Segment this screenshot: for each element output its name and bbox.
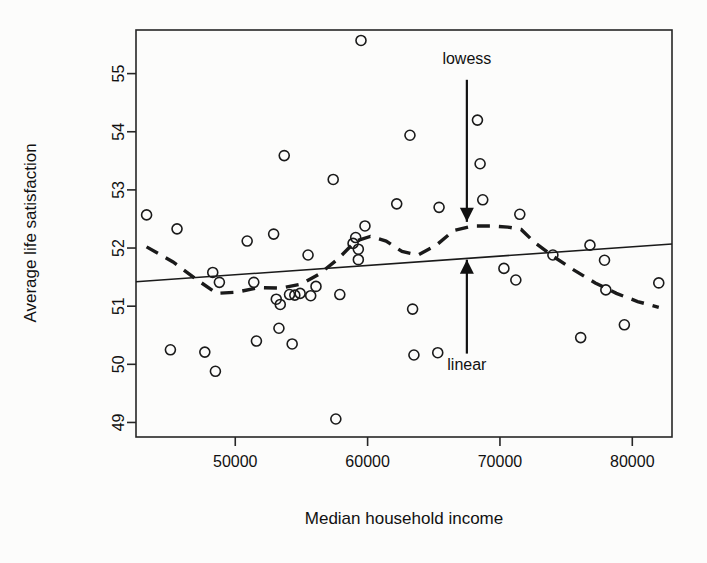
data-point [392,199,402,209]
x-tick-label-70000: 70000 [478,453,523,470]
data-point [478,195,488,205]
data-point [242,236,252,246]
annotation-label-linear: linear [447,356,487,373]
data-point [311,281,321,291]
data-point [279,151,289,161]
data-point [654,278,664,288]
data-point [434,202,444,212]
data-point [172,224,182,234]
data-point [576,333,586,343]
y-axis-title: Average life satisfaction [21,143,40,322]
x-tick-label-60000: 60000 [345,453,390,470]
data-point [433,348,443,358]
data-point [331,414,341,424]
data-point [274,323,284,333]
data-point [249,277,259,287]
y-tick-label-51: 51 [110,297,127,315]
chart-figure: Average life satisfaction Median househo… [0,0,707,563]
data-point [360,221,370,231]
data-point [287,339,297,349]
data-point [472,115,482,125]
y-tick-label-50: 50 [110,355,127,373]
annotations: lowesslinear [442,50,491,373]
y-tick-label-54: 54 [110,123,127,141]
data-point [328,174,338,184]
y-tick-label-49: 49 [110,413,127,431]
y-tick-label-53: 53 [110,181,127,199]
data-point [303,250,313,260]
data-point [165,345,175,355]
data-points [142,35,664,424]
data-point [251,336,261,346]
data-point [585,240,595,250]
data-point [200,347,210,357]
data-point [600,255,610,265]
scatter-plot-svg: Average life satisfaction Median househo… [0,0,707,563]
data-point [408,304,418,314]
annotation-arrow-head-lowess [460,208,474,222]
data-point [269,229,279,239]
data-point [306,291,316,301]
data-point [210,366,220,376]
x-tick-label-80000: 80000 [610,453,655,470]
y-tick-label-52: 52 [110,239,127,257]
data-point [515,209,525,219]
lowess-curve [147,226,659,307]
data-point [351,233,361,243]
annotation-label-lowess: lowess [442,50,491,67]
data-point [356,35,366,45]
data-point [511,275,521,285]
lowess-polyline [147,226,659,307]
data-point [601,285,611,295]
x-axis-title: Median household income [305,509,503,528]
data-point [214,277,224,287]
x-tick-label-50000: 50000 [213,453,258,470]
data-point [619,320,629,330]
data-point [409,350,419,360]
data-point [548,250,558,260]
data-point [353,255,363,265]
data-point [142,210,152,220]
data-point [335,290,345,300]
x-axis-ticks: 50000600007000080000 [213,437,655,470]
data-point [475,159,485,169]
y-axis-ticks: 49505152535455 [110,65,137,432]
data-point [499,263,509,273]
y-tick-label-55: 55 [110,65,127,83]
annotation-arrow-head-linear [460,260,474,274]
data-point [405,130,415,140]
